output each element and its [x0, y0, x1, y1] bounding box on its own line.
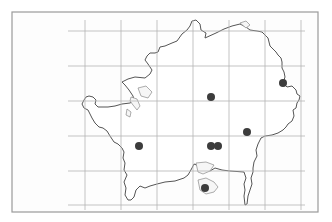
record-dot: [214, 142, 222, 150]
distribution-map: [0, 0, 332, 222]
record-dot: [135, 142, 143, 150]
record-dot: [279, 79, 287, 87]
record-dot: [207, 93, 215, 101]
record-dot: [201, 184, 209, 192]
record-dot: [243, 128, 251, 136]
record-dot: [207, 142, 215, 150]
